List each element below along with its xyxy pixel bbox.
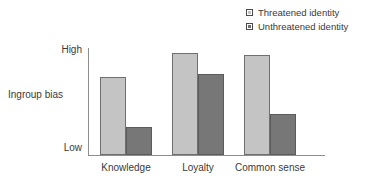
legend-swatch-icon-unthreatened <box>246 23 253 30</box>
bar-group <box>244 48 296 155</box>
x-tick-labels: KnowledgeLoyaltyCommon sense <box>89 161 325 175</box>
legend-item-threatened-identity: Threatened identity <box>246 6 366 19</box>
plot-area <box>88 48 325 155</box>
bar <box>126 127 152 155</box>
legend-label-unthreatened: Unthreatened identity <box>258 21 348 32</box>
x-axis-line <box>88 155 325 156</box>
bar-group <box>100 48 152 155</box>
legend-label-threatened: Threatened identity <box>258 7 339 18</box>
bar <box>244 55 270 155</box>
y-tick-label-low: Low <box>64 142 82 154</box>
bar-group <box>172 48 224 155</box>
x-tick-label: Common sense <box>220 161 320 174</box>
chart-legend: Threatened identity Unthreatened identit… <box>246 6 366 34</box>
bar <box>198 74 224 155</box>
bar <box>100 77 126 155</box>
y-tick-label-high: High <box>61 44 82 56</box>
legend-swatch-icon-threatened <box>246 9 253 16</box>
bar <box>172 53 198 155</box>
bars-layer <box>89 48 325 155</box>
y-axis-title: Ingroup bias <box>8 89 63 101</box>
bar-chart-figure: Threatened identity Unthreatened identit… <box>0 0 366 186</box>
bar <box>270 114 296 155</box>
legend-item-unthreatened-identity: Unthreatened identity <box>246 20 366 33</box>
